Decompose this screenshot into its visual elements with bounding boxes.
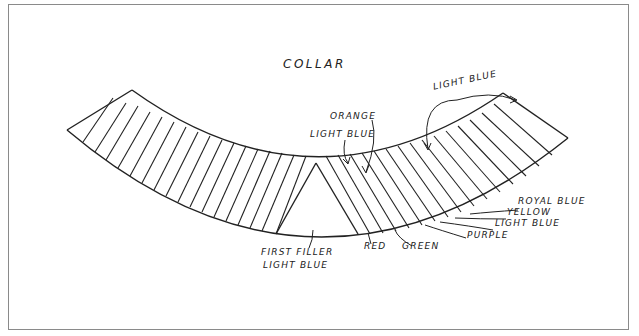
- label-purple: PURPLE: [467, 230, 509, 240]
- label-royal-blue: ROYAL BLUE: [518, 196, 586, 206]
- label-first-filler-color: LIGHT BLUE: [263, 260, 328, 270]
- collar-diagram: [0, 0, 639, 336]
- label-orange: ORANGE: [330, 111, 376, 121]
- diagram-title: COLLAR: [283, 57, 346, 71]
- label-green: GREEN: [402, 241, 439, 251]
- left-stripes: [83, 98, 306, 234]
- label-light-blue-center: LIGHT BLUE: [310, 129, 375, 139]
- label-first-filler: FIRST FILLER: [261, 247, 333, 257]
- label-light-blue-bottom: LIGHT BLUE: [495, 218, 560, 228]
- label-red: RED: [364, 241, 386, 251]
- label-yellow: YELLOW: [507, 207, 551, 217]
